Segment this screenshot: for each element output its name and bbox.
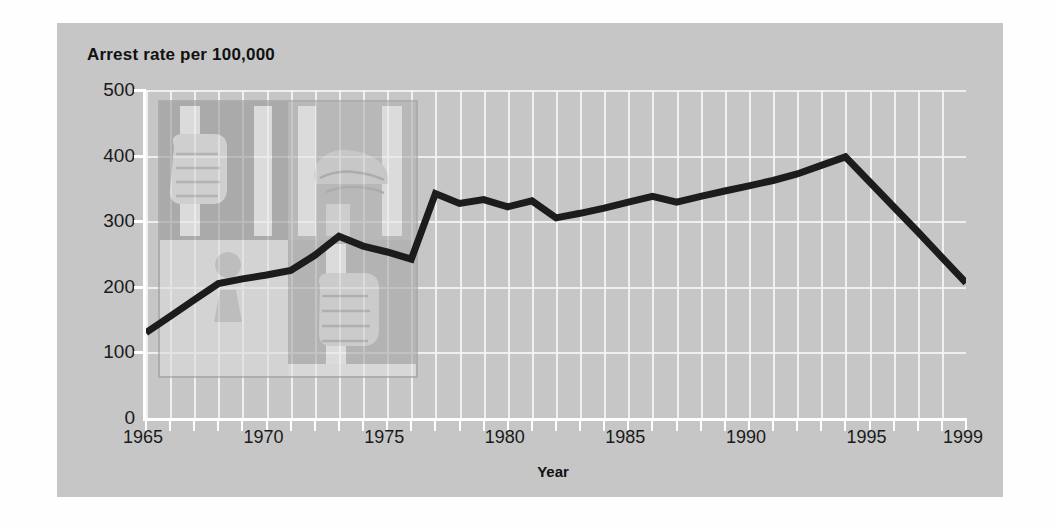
- plot-area: [143, 90, 966, 421]
- y-axis-tick-label: 100: [103, 341, 135, 363]
- y-axis-tick-label: 400: [103, 145, 135, 167]
- x-axis-tick-label: 1999: [943, 427, 983, 448]
- x-axis-tick-label: 1995: [846, 427, 886, 448]
- y-axis-tick-label: 300: [103, 210, 135, 232]
- x-axis-tick-label: 1990: [726, 427, 766, 448]
- x-axis-tick-label: 1965: [123, 427, 163, 448]
- y-axis-tick-label: 0: [124, 407, 135, 429]
- x-axis-tick-label: 1970: [244, 427, 284, 448]
- y-axis-tick-label: 500: [103, 79, 135, 101]
- chart-title: Arrest rate per 100,000: [87, 45, 275, 65]
- chart-page: Arrest rate per 100,000 0100200300400500: [0, 0, 1056, 526]
- y-axis-tick: [134, 351, 146, 354]
- x-axis-tick-label: 1975: [364, 427, 404, 448]
- x-axis-tick-label: 1980: [485, 427, 525, 448]
- chart-card: Arrest rate per 100,000 0100200300400500: [57, 23, 1003, 497]
- y-axis-tick: [134, 220, 146, 223]
- y-axis-tick-label: 200: [103, 276, 135, 298]
- x-axis-title: Year: [143, 463, 963, 480]
- y-axis-labels: 0100200300400500: [77, 90, 135, 418]
- y-axis-tick: [134, 286, 146, 289]
- x-axis-tick-label: 1985: [605, 427, 645, 448]
- x-axis-labels: 19651970197519801985199019951999: [143, 427, 963, 453]
- y-axis-tick: [134, 155, 146, 158]
- y-axis-tick: [134, 89, 146, 92]
- plot-inner: [146, 90, 966, 418]
